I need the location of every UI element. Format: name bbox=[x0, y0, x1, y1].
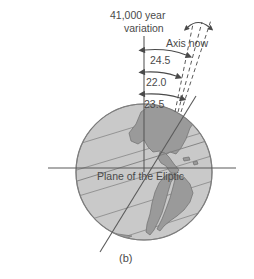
figure-caption: (b) bbox=[119, 252, 132, 264]
angle-label-22-0: 22.0 bbox=[146, 76, 167, 88]
plane-of-ecliptic-label: Plane of the Eliptic bbox=[97, 170, 184, 182]
axis-now-label: Axis now bbox=[166, 37, 208, 49]
obliquity-diagram: Plane of the Eliptic 41,000 year variati… bbox=[0, 0, 254, 279]
angle-label-23-5: 23.5 bbox=[144, 98, 165, 110]
title-line-1: 41,000 year bbox=[110, 9, 166, 21]
title-line-2: variation bbox=[124, 22, 164, 34]
angle-label-24-5: 24.5 bbox=[150, 54, 171, 66]
